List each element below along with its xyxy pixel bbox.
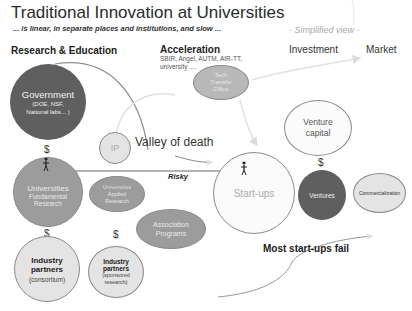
valley-of-death-label: Valley of death	[135, 135, 214, 149]
tech-transfer-line1: Tech	[215, 72, 228, 79]
node-startups[interactable]: Start-ups	[213, 152, 295, 234]
venture-capital-line1: Venture	[303, 117, 332, 128]
industry-consortium-detail: (consortium)	[29, 276, 65, 283]
industry-sponsored-title1: Industry	[103, 258, 129, 265]
universities-fundamental-title: Universities	[27, 184, 68, 193]
node-association-programs[interactable]: Association Programs	[136, 209, 206, 249]
node-commercialization[interactable]: Commercialization	[353, 173, 406, 213]
commercialization-label: Commercialization	[359, 190, 400, 196]
universities-applied-title: Universities	[103, 184, 131, 191]
column-market: Market	[366, 44, 397, 55]
node-industry-sponsored[interactable]: Industry partners (sponsored research)	[88, 246, 144, 298]
most-startups-fail-label: Most start-ups fail	[263, 243, 349, 254]
page-title: Traditional Innovation at Universities	[11, 3, 284, 23]
ip-label: IP	[111, 143, 120, 153]
dollar-icon: $	[44, 144, 50, 155]
view-note: - Simplified view -	[289, 25, 360, 35]
node-industry-consortium[interactable]: Industry partners (consortium)	[14, 236, 80, 302]
universities-fundamental-detail2: Research	[34, 200, 62, 207]
node-tech-transfer[interactable]: Tech Transfer Office	[193, 65, 249, 100]
universities-fundamental-detail1: Fundamental	[29, 193, 67, 200]
dollar-icon: $	[113, 229, 119, 240]
industry-consortium-title1: Industry	[31, 256, 63, 265]
industry-sponsored-title2: partners	[103, 265, 129, 272]
startups-label: Start-ups	[234, 188, 275, 199]
column-investment: Investment	[289, 44, 338, 55]
column-research-education: Research & Education	[11, 45, 117, 56]
node-government[interactable]: Government (DOE, NSF, National labs... )	[10, 64, 86, 140]
person-icon	[42, 157, 50, 171]
tech-transfer-line3: Office	[213, 86, 229, 93]
risky-label: Risky	[168, 172, 188, 181]
industry-consortium-title2: partners	[31, 265, 63, 274]
node-venture-capital[interactable]: Venture capital	[284, 100, 352, 156]
ventures-label: Ventures	[309, 192, 335, 199]
node-ventures[interactable]: Ventures	[298, 170, 346, 220]
column-acceleration: Acceleration	[160, 44, 220, 55]
venture-capital-line2: capital	[306, 128, 331, 139]
page-subtitle: ... is linear, in separate places and in…	[13, 24, 221, 33]
tech-transfer-line2: Transfer	[210, 79, 232, 86]
dollar-icon: $	[318, 157, 324, 168]
industry-sponsored-detail1: (sponsored	[102, 272, 130, 279]
industry-sponsored-detail2: research)	[104, 279, 127, 286]
association-line1: Association	[153, 220, 189, 229]
universities-applied-detail2: Research	[105, 198, 129, 205]
universities-applied-detail1: Applied	[108, 191, 126, 198]
node-universities-applied[interactable]: Universities Applied Research	[89, 176, 145, 212]
government-title: Government	[22, 89, 74, 100]
government-detail: (DOE, NSF, National labs... )	[21, 100, 76, 116]
person-icon	[240, 161, 248, 175]
node-ip[interactable]: IP	[99, 132, 131, 164]
association-line2: Programs	[156, 229, 186, 238]
